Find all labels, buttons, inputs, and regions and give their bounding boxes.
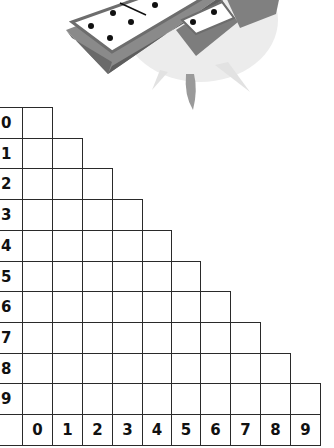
grid-cell: [22, 291, 53, 323]
grid-cell: [230, 353, 261, 384]
column-label: 1: [52, 414, 83, 446]
row-label: 1: [0, 138, 23, 169]
grid-cell: [112, 199, 143, 231]
grid-cell: [22, 353, 53, 384]
column-label: 6: [200, 414, 231, 446]
column-label: 3: [112, 414, 143, 446]
grid-cell: [112, 353, 143, 384]
grid-cell: [112, 261, 143, 292]
grid-cell: [142, 353, 172, 384]
grid-cell: [290, 383, 321, 415]
row-label: 0: [0, 107, 23, 139]
grid-cell: [82, 383, 113, 415]
row-label: 3: [0, 199, 23, 231]
grid-cell: [52, 138, 83, 169]
grid-cell: [230, 322, 261, 354]
grid-cell: [200, 353, 231, 384]
grid-cell: [112, 230, 143, 262]
grid-cell: [230, 383, 261, 415]
grid-cell: [82, 168, 113, 200]
grid-cell: [52, 199, 83, 231]
grid-cell: [52, 230, 83, 262]
column-label: 0: [22, 414, 53, 446]
grid-cell: [52, 383, 83, 415]
grid-cell: [171, 322, 201, 354]
grid-cell: [260, 353, 291, 384]
grid-cell: [22, 138, 53, 169]
grid-cell: [82, 199, 113, 231]
column-label: 7: [230, 414, 261, 446]
row-label: 8: [0, 353, 23, 384]
grid-cell: [142, 261, 172, 292]
corner-cell: [0, 414, 23, 446]
column-label: 4: [142, 414, 172, 446]
row-label: 6: [0, 291, 23, 323]
domino-illustration: [0, 0, 334, 115]
grid-cell: [52, 322, 83, 354]
grid-cell: [171, 261, 201, 292]
row-label: 5: [0, 261, 23, 292]
grid-cell: [22, 383, 53, 415]
column-label: 9: [290, 414, 321, 446]
grid-cell: [52, 168, 83, 200]
row-label: 9: [0, 383, 23, 415]
column-label: 2: [82, 414, 113, 446]
row-label: 2: [0, 168, 23, 200]
grid-cell: [22, 168, 53, 200]
grid-cell: [52, 261, 83, 292]
column-label: 5: [171, 414, 201, 446]
grid-cell: [82, 291, 113, 323]
grid-cell: [112, 383, 143, 415]
grid-cell: [82, 261, 113, 292]
domino-tiles-icon: [0, 0, 334, 115]
grid-cell: [260, 383, 291, 415]
grid-cell: [200, 322, 231, 354]
grid-cell: [22, 199, 53, 231]
grid-cell: [52, 353, 83, 384]
grid-cell: [142, 383, 172, 415]
grid-cell: [171, 353, 201, 384]
row-label: 4: [0, 230, 23, 262]
grid-cell: [82, 353, 113, 384]
grid-cell: [200, 383, 231, 415]
grid-cell: [112, 291, 143, 323]
grid-cell: [112, 322, 143, 354]
grid-cell: [142, 322, 172, 354]
grid-cell: [171, 383, 201, 415]
column-label: 8: [260, 414, 291, 446]
grid-cell: [142, 230, 172, 262]
grid-cell: [22, 322, 53, 354]
grid-cell: [22, 107, 53, 139]
grid-cell: [22, 230, 53, 262]
row-label: 7: [0, 322, 23, 354]
grid-cell: [142, 291, 172, 323]
grid-cell: [171, 291, 201, 323]
grid-cell: [22, 261, 53, 292]
grid-cell: [52, 291, 83, 323]
grid-cell: [82, 230, 113, 262]
grid-cell: [200, 291, 231, 323]
grid-cell: [82, 322, 113, 354]
